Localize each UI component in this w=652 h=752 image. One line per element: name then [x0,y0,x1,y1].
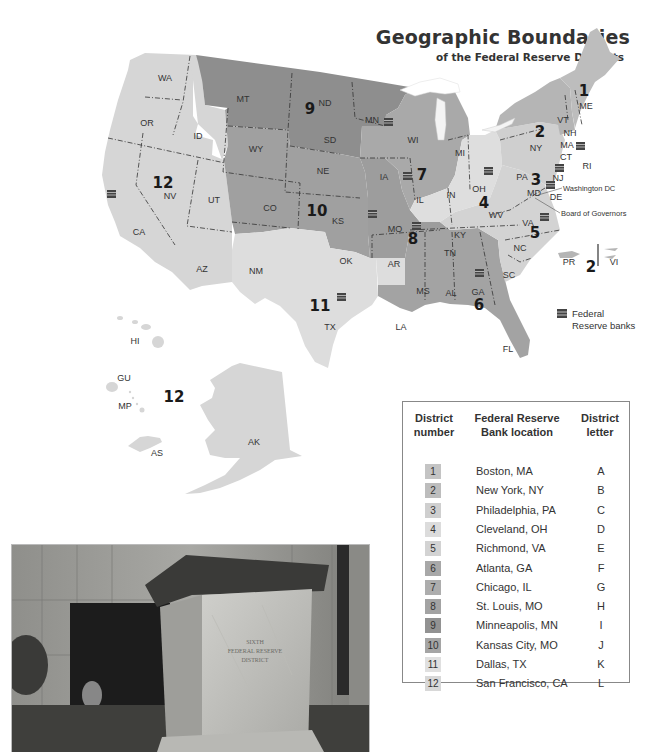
svg-text:OR: OR [140,118,154,128]
svg-text:AK: AK [248,437,260,447]
svg-text:WV: WV [489,210,504,220]
svg-text:8: 8 [408,230,418,248]
svg-text:2: 2 [535,123,545,141]
district-number-badge: 11 [425,657,441,672]
svg-text:NC: NC [514,243,527,253]
table-row: 3Philadelphia, PAC [403,503,629,522]
svg-text:4: 4 [479,194,489,212]
svg-text:WY: WY [249,144,264,154]
district-number-badge: 5 [425,541,441,556]
svg-text:NY: NY [530,143,543,153]
svg-text:MS: MS [416,286,430,296]
bank-icon-new-york [555,164,564,172]
bank-location: Minneapolis, MN [476,618,558,633]
district-letter: I [591,618,611,633]
bank-icon-dallas [337,293,346,301]
svg-text:ME: ME [579,101,593,111]
district-letter: L [591,676,611,691]
inscription-line-3: DISTRICT [242,657,269,663]
svg-text:MN: MN [365,115,379,125]
table-row: 10Kansas City, MOJ [403,638,629,657]
district-letter: G [591,580,611,595]
bank-location: St. Louis, MO [476,599,543,614]
bank-location: Chicago, IL [476,580,532,595]
bank-icon-kansas-city [368,210,377,218]
svg-text:2: 2 [586,258,596,276]
bank-icon-minneapolis [384,118,393,126]
bank-icon-philadelphia [546,181,555,189]
svg-text:Washington DC: Washington DC [563,184,616,193]
header-bank-location: Federal Reserve Bank location [467,411,567,439]
table-row: 11Dallas, TXK [403,657,629,676]
svg-text:SC: SC [503,270,516,280]
header-district-number: District number [409,411,459,439]
bank-location: Kansas City, MO [476,638,558,653]
table-row: 8St. Louis, MOH [403,599,629,618]
inscription-line-1: SIXTH [246,639,264,645]
svg-text:VT: VT [557,115,569,125]
svg-text:WA: WA [158,73,172,83]
svg-text:RI: RI [583,161,592,171]
svg-text:ID: ID [194,131,204,141]
bank-building-icon [557,309,567,318]
bank-location: Boston, MA [476,464,533,479]
district-letter: D [591,522,611,537]
district-table: District number Federal Reserve Bank loc… [402,401,630,683]
svg-text:NH: NH [564,128,577,138]
svg-text:WI: WI [408,135,419,145]
table-row: 6Atlanta, GAF [403,561,629,580]
bank-location: San Francisco, CA [476,676,568,691]
bank-location: Cleveland, OH [476,522,548,537]
bank-icon-boston [576,142,585,150]
district-letter: E [591,541,611,556]
svg-text:MT: MT [237,94,250,104]
svg-text:TX: TX [324,322,336,332]
svg-text:MI: MI [455,148,465,158]
svg-text:AZ: AZ [196,264,208,274]
bank-icon-chicago [403,172,412,180]
svg-text:IN: IN [447,190,456,200]
bank-icon-atlanta [475,269,484,277]
svg-text:1: 1 [579,82,589,100]
svg-text:PA: PA [516,172,527,182]
svg-text:SD: SD [324,135,337,145]
svg-text:CT: CT [560,152,572,162]
federal-reserve-pedestal-photo: SIXTH FEDERAL RESERVE DISTRICT [11,544,370,752]
inscription-line-2: FEDERAL RESERVE [228,648,283,654]
bank-icon-sf [107,190,116,198]
svg-text:KS: KS [332,216,344,226]
alaska [185,363,302,494]
bank-location: Philadelphia, PA [476,503,556,518]
svg-text:OK: OK [339,256,352,266]
svg-text:11: 11 [310,297,331,315]
svg-text:CA: CA [133,227,146,237]
svg-text:NV: NV [164,191,177,201]
svg-text:6: 6 [474,296,484,314]
svg-text:MA: MA [560,140,574,150]
header-district-letter: District letter [575,411,625,439]
svg-text:10: 10 [307,202,328,220]
district-letter: A [591,464,611,479]
label-as: AS [151,448,163,458]
svg-text:5: 5 [530,224,540,242]
district-number-badge: 3 [425,503,441,518]
svg-text:9: 9 [305,100,315,118]
svg-text:DE: DE [550,192,563,202]
svg-text:ND: ND [319,98,332,108]
district-number-badge: 4 [425,522,441,537]
svg-text:TN: TN [444,248,456,258]
svg-text:OH: OH [472,184,486,194]
svg-text:AL: AL [445,288,456,298]
district-letter: H [591,599,611,614]
district-number-badge: 9 [425,618,441,633]
svg-text:PR: PR [563,257,576,267]
svg-text:3: 3 [531,171,541,189]
bank-icon-richmond [540,213,549,221]
district-number-badge: 8 [425,599,441,614]
district-number-badge: 6 [425,561,441,576]
svg-text:IL: IL [416,195,424,205]
svg-text:UT: UT [208,195,220,205]
svg-text:LA: LA [395,322,406,332]
district-number-badge: 10 [425,638,441,653]
legend-label: Federal Reserve banks [572,308,642,332]
